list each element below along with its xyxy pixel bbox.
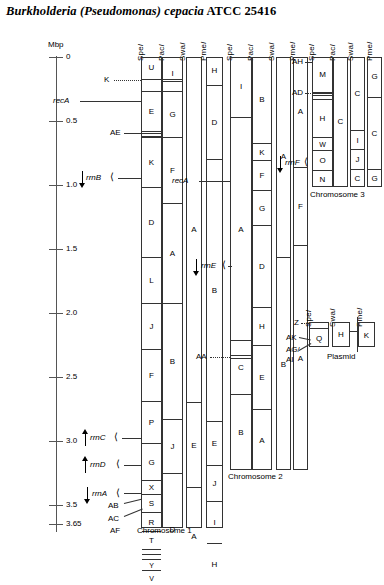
fragment: L	[142, 257, 161, 303]
fragment: C	[368, 97, 381, 169]
caption-chromosome-3: Chromosome 3	[310, 190, 365, 199]
fragment: K	[253, 143, 271, 160]
axis-tick	[49, 313, 63, 314]
fragment: B	[207, 159, 222, 421]
axis-tick-label: 1.5	[66, 244, 77, 253]
fragment: K	[142, 137, 161, 187]
lane-chr3-swai: C I J C	[350, 57, 365, 187]
fragment: Y	[142, 559, 161, 570]
lane-chr1-paci: I G F A B J D	[162, 57, 183, 528]
marker-label-reca-chr1: recA	[53, 96, 69, 105]
fragment: H	[253, 307, 271, 345]
axis-unit-label: Mbp	[48, 40, 64, 49]
fragment: I	[163, 57, 182, 91]
axis-tick	[49, 185, 63, 186]
marker-label-af: AF	[110, 526, 120, 535]
fragment: H	[207, 543, 222, 585]
fragment: F	[142, 349, 161, 401]
gene-marker-chevron: ⟨	[114, 432, 118, 442]
fragment: A	[187, 57, 201, 402]
fragment: J	[351, 149, 364, 169]
marker-label-k: K	[104, 75, 109, 84]
marker-label-reca-chr2: recA	[172, 176, 188, 185]
fragment: A	[231, 117, 251, 340]
fragment: C	[231, 340, 251, 394]
fragment: E	[142, 91, 161, 131]
marker-label-ae: AE	[110, 128, 121, 137]
gene-label-rrnb: rrnB	[86, 173, 101, 182]
fragment: M	[313, 57, 332, 93]
fragment: E	[253, 345, 271, 409]
marker-label-z: Z	[294, 318, 299, 327]
fragment: O	[313, 150, 332, 170]
lane-chr2-swai: A B	[276, 57, 291, 470]
lane-chr3-pmei: G C G	[367, 57, 382, 187]
marker-label-ac: AC	[108, 514, 119, 523]
fragment: C	[351, 169, 364, 187]
lane-chr2-spei: I A C B	[230, 57, 252, 470]
fragment: A	[277, 57, 290, 257]
gene-label-rrnd: rrnD	[90, 460, 106, 469]
fragment: X	[142, 480, 161, 494]
marker-label-ab: AB	[108, 501, 119, 510]
fragment: B	[163, 303, 182, 419]
gene-label-rrne: rrnE	[201, 261, 216, 270]
fragment: V	[142, 570, 161, 585]
fragment: D	[253, 225, 271, 307]
axis-tick	[49, 441, 63, 442]
fragment: N	[313, 170, 332, 187]
gene-marker-chevron: ⟨	[116, 488, 120, 498]
axis-tick-label: 1.0	[66, 180, 77, 189]
axis-tick	[49, 505, 63, 506]
fragment: A	[163, 203, 182, 303]
axis-tick	[49, 524, 63, 525]
fragment: J	[142, 303, 161, 349]
axis-tick	[49, 57, 63, 58]
fragment: H	[313, 99, 332, 137]
fragment: J	[163, 419, 182, 473]
fragment: F	[253, 160, 271, 190]
fragment: F	[294, 167, 307, 245]
gene-label-rrnf: rrnF	[285, 158, 300, 167]
fragment: S	[142, 494, 161, 512]
marker-label-ai: AI	[286, 355, 294, 364]
fragment: U	[142, 57, 161, 79]
fragment: I	[231, 57, 251, 117]
caption-chromosome-2: Chromosome 2	[228, 472, 283, 481]
figure-title-strain: ATCC 25416	[206, 4, 276, 18]
fragment: G	[368, 169, 381, 187]
axis-tick-label: 3.0	[66, 436, 77, 445]
fragment: C	[334, 57, 347, 187]
fragment: A	[187, 487, 201, 585]
fragment: H	[333, 322, 349, 347]
axis-tick-label: 3.5	[66, 500, 77, 509]
fragment: D	[142, 187, 161, 257]
fragment: A	[294, 245, 307, 470]
marker-label-aa: AA	[196, 352, 207, 361]
axis-tick	[49, 121, 63, 122]
fragment: E	[207, 421, 222, 465]
caption-chromosome-1: Chromosome 1	[137, 526, 192, 535]
axis-tick-label: 0.5	[66, 116, 77, 125]
lane-chr1-swai: A E A	[186, 57, 202, 528]
marker-label-ah: AH	[292, 57, 303, 66]
lane-plasmid-pmei: K	[358, 322, 375, 347]
gene-label-rrnc: rrnC	[90, 433, 106, 442]
axis-tick-label: 2.0	[66, 308, 77, 317]
fragment: K	[359, 322, 374, 347]
lane-plasmid-spei: Q	[309, 322, 329, 347]
fragment: G	[163, 91, 182, 137]
fragment: G	[368, 57, 381, 97]
gene-marker-chevron: ⟨	[110, 172, 114, 182]
gene-marker-chevron: ⟨	[304, 157, 308, 167]
lane-chr2-paci: B K F G D H E A	[252, 57, 272, 470]
gene-marker-chevron: ⟨	[116, 459, 120, 469]
marker-label-ak: AK	[286, 333, 297, 342]
fragment: F	[163, 137, 182, 203]
fragment: I	[207, 501, 222, 543]
lane-chr3-spei: M H W O N	[312, 57, 333, 187]
fragment: I	[351, 130, 364, 149]
fragment: J	[207, 465, 222, 501]
fragment: B	[231, 394, 251, 470]
fragment: H	[207, 57, 222, 85]
